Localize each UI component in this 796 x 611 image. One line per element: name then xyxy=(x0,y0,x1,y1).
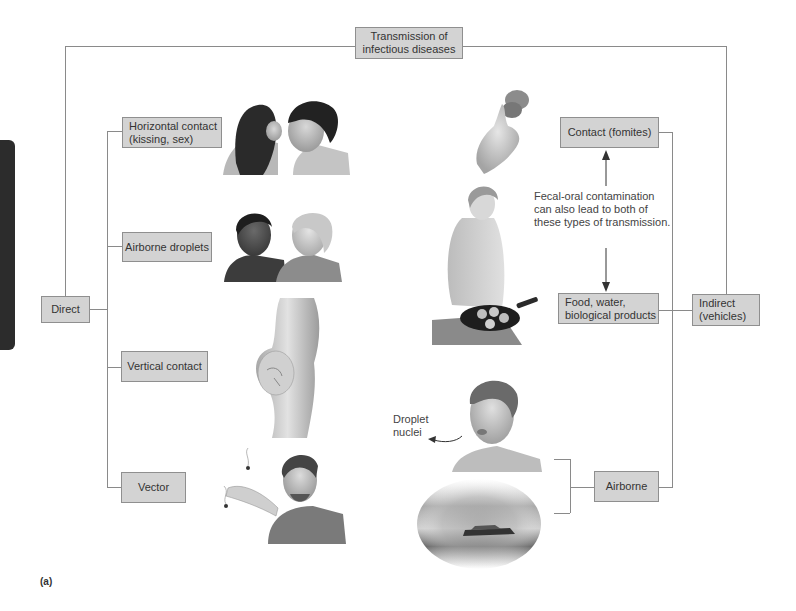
connector xyxy=(65,46,355,47)
man-coughing-illustration xyxy=(452,374,544,472)
fecal-oral-note: Fecal-oral contamination can also lead t… xyxy=(534,190,670,229)
connector xyxy=(659,487,672,488)
title-box: Transmission of infectious diseases xyxy=(355,27,463,59)
box-text: Airborne droplets xyxy=(125,241,209,254)
indirect-label-line-1: Indirect xyxy=(699,297,753,310)
connector xyxy=(107,487,122,488)
box-text: Vector xyxy=(138,481,169,494)
airborne-box: Airborne xyxy=(594,471,659,502)
contact-fomites-box: Contact (fomites) xyxy=(560,117,659,148)
note-line: Fecal-oral contamination xyxy=(534,190,670,203)
vector-box: Vector xyxy=(121,472,186,503)
connector xyxy=(463,46,727,47)
page-edge-tab xyxy=(0,140,15,350)
connector xyxy=(726,46,727,294)
indirect-label-line-2: (vehicles) xyxy=(699,310,753,323)
bracket xyxy=(570,459,571,513)
connector xyxy=(90,309,107,310)
kissing-couple-illustration xyxy=(218,93,353,175)
note-line: nuclei xyxy=(393,426,428,439)
droplet-nuclei-label: Droplet nuclei xyxy=(393,413,428,439)
connector xyxy=(672,132,673,488)
food-water-box: Food, water, biological products xyxy=(558,293,659,324)
note-line: Droplet xyxy=(393,413,428,426)
note-line: can also lead to both of xyxy=(534,203,670,216)
connector xyxy=(107,131,122,132)
bracket xyxy=(554,459,570,460)
box-text: Vertical contact xyxy=(127,360,202,373)
connector xyxy=(659,132,672,133)
title-line-2: infectious diseases xyxy=(363,43,456,56)
connector xyxy=(107,131,108,488)
two-people-talking-illustration xyxy=(224,205,342,282)
person-cooking-illustration xyxy=(432,180,538,345)
connector xyxy=(672,310,692,311)
connector xyxy=(107,246,122,247)
connector xyxy=(570,487,594,488)
bracket xyxy=(554,513,570,514)
box-text: Food, water, xyxy=(565,296,652,309)
hand-holding-object-illustration xyxy=(472,86,537,174)
direct-box: Direct xyxy=(41,296,90,323)
man-swatting-insects-illustration xyxy=(218,448,348,544)
airborne-droplets-box: Airborne droplets xyxy=(122,232,212,262)
box-text: biological products xyxy=(565,309,652,322)
box-text: Airborne xyxy=(606,480,648,493)
car-dust-cloud-illustration xyxy=(415,478,543,570)
box-text: Horizontal contact xyxy=(129,120,215,133)
title-line-1: Transmission of xyxy=(370,30,447,43)
box-text: Contact (fomites) xyxy=(568,126,652,139)
connector xyxy=(659,310,672,311)
indirect-box: Indirect (vehicles) xyxy=(692,294,760,326)
direct-label: Direct xyxy=(51,303,80,316)
connector xyxy=(65,46,66,296)
horizontal-contact-box: Horizontal contact (kissing, sex) xyxy=(122,117,222,148)
box-text: (kissing, sex) xyxy=(129,133,215,146)
vertical-contact-box: Vertical contact xyxy=(121,351,208,382)
note-line: these types of transmission. xyxy=(534,216,670,229)
connector xyxy=(107,367,122,368)
pregnant-woman-illustration xyxy=(252,298,327,438)
figure-label: (a) xyxy=(40,576,52,587)
